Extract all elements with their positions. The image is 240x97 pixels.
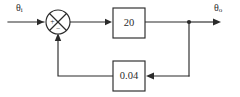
- wire-feedback-block-to-summing-junction: [58, 40, 113, 76]
- summing-junction-minus-sign: −: [56, 24, 60, 33]
- input-signal-label: θi: [16, 3, 23, 14]
- output-takeoff-node-dot: [187, 20, 191, 24]
- block-diagram-canvas: + − 20 0.04 θi θo: [0, 0, 240, 97]
- output-signal-label: θo: [214, 3, 222, 14]
- forward-gain-block: 20: [113, 8, 145, 38]
- summing-junction: + −: [46, 10, 70, 34]
- feedback-gain-block: 0.04: [113, 61, 145, 91]
- arrowhead-into-feedback-block: [146, 73, 154, 80]
- feedback-gain-block-label: 0.04: [120, 70, 139, 81]
- forward-gain-block-label: 20: [124, 17, 135, 28]
- input-signal-subscript: i: [21, 6, 23, 14]
- block-diagram-svg: + − 20 0.04: [0, 0, 240, 97]
- summing-junction-plus-sign: +: [50, 17, 54, 26]
- arrowhead-into-forward-block: [105, 19, 112, 25]
- arrowhead-output: [213, 19, 221, 26]
- arrowhead-input-to-summing-junction: [37, 19, 44, 25]
- output-signal-subscript: o: [219, 6, 223, 14]
